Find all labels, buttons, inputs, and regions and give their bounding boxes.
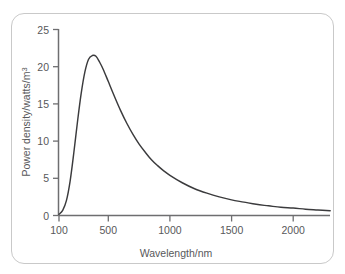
y-tick-label-25: 25 [37,24,49,36]
y-axis-title: Power density/watts/m3 [20,67,33,176]
y-tick-label-5: 5 [43,172,49,184]
x-axis-title: Wavelength/nm [140,247,213,259]
y-axis-title-superscript: 3 [20,67,29,71]
y-tick-label-15: 15 [37,98,49,110]
x-tick-label-2000: 2000 [282,224,306,236]
y-tick-label-10: 10 [37,135,49,147]
y-tick-label-20: 20 [37,61,49,73]
x-tick-label-1500: 1500 [220,224,244,236]
power-density-curve [59,55,330,214]
x-axis-tick-labels: 100 500 1000 1500 2000 [50,224,305,236]
y-axis-tick-labels: 25 20 15 10 5 0 [37,24,49,222]
y-axis-title-group: Power density/watts/m3 [20,67,33,176]
y-axis-ticks [53,30,59,216]
y-tick-label-0: 0 [43,210,49,222]
x-tick-label-500: 500 [100,224,118,236]
x-tick-label-100: 100 [50,224,68,236]
y-axis-title-text: Power density/watts/m [20,71,32,176]
y-axis: 25 20 15 10 5 0 Power density/watts/m3 [20,24,59,222]
x-axis-ticks [59,216,293,222]
x-axis: 100 500 1000 1500 2000 Wavelength/nm [50,216,330,260]
chart-plot: 25 20 15 10 5 0 Power density/watts/m3 1… [0,0,345,274]
x-tick-label-1000: 1000 [158,224,182,236]
